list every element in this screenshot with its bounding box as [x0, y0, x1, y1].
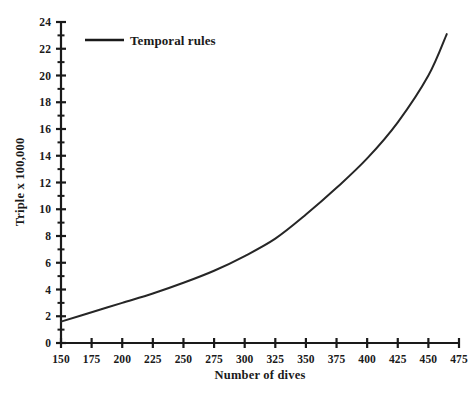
y-tick-label: 14 — [39, 150, 51, 162]
y-axis-title: Triple x 100,000 — [13, 138, 27, 227]
series-group — [61, 34, 447, 322]
y-tick-label: 4 — [45, 284, 51, 296]
x-axis-title: Number of dives — [215, 368, 306, 382]
x-tick-label: 350 — [297, 353, 315, 365]
y-tick-label: 20 — [39, 70, 51, 82]
legend: Temporal rules — [85, 33, 216, 48]
x-tick-label: 150 — [52, 353, 70, 365]
x-tick-label: 325 — [267, 353, 285, 365]
x-tick-label: 375 — [328, 353, 346, 365]
x-tick-label: 425 — [389, 353, 407, 365]
series-line-temporal-rules — [61, 34, 447, 322]
y-tick-label: 8 — [45, 230, 51, 242]
x-tick-label: 275 — [205, 353, 223, 365]
y-tick-label: 18 — [39, 96, 51, 108]
x-tick-label: 175 — [83, 353, 101, 365]
x-tick-label: 250 — [175, 353, 193, 365]
y-axis-tick-labels: 024681012141618202224 — [39, 16, 51, 349]
x-tick-label: 300 — [236, 353, 254, 365]
x-tick-label: 200 — [113, 353, 131, 365]
y-tick-label: 24 — [39, 16, 51, 28]
y-tick-label: 12 — [39, 177, 51, 189]
x-axis-tick-labels: 1501752002252502753003253503754004254504… — [52, 353, 468, 365]
y-tick-label: 6 — [45, 257, 51, 269]
y-tick-label: 0 — [45, 337, 51, 349]
x-tick-label: 475 — [450, 353, 468, 365]
y-tick-label: 22 — [39, 43, 51, 55]
x-tick-label: 400 — [358, 353, 376, 365]
chart-canvas: 024681012141618202224 150175200225250275… — [0, 0, 473, 399]
legend-label-temporal-rules: Temporal rules — [130, 33, 216, 48]
x-tick-label: 225 — [144, 353, 162, 365]
y-tick-label: 10 — [39, 203, 51, 215]
y-tick-label: 16 — [39, 123, 51, 135]
axes-group — [61, 22, 459, 343]
x-tick-label: 450 — [420, 353, 438, 365]
line-chart: 024681012141618202224 150175200225250275… — [0, 0, 473, 399]
y-tick-label: 2 — [45, 310, 51, 322]
